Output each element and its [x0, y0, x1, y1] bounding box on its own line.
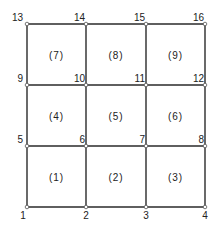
element-label: (4): [49, 111, 64, 122]
node-label: 7: [139, 134, 145, 145]
element-label: (7): [49, 50, 64, 61]
mesh-node: [25, 205, 29, 209]
node-label: 13: [12, 12, 24, 23]
element-label: (8): [108, 50, 123, 61]
mesh-node: [203, 205, 207, 209]
node-label: 2: [83, 210, 89, 221]
node-label: 9: [17, 73, 23, 84]
mesh-node: [25, 22, 29, 26]
node-label: 10: [74, 73, 86, 84]
node-label: 12: [193, 73, 205, 84]
node-label: 3: [143, 210, 149, 221]
node-label: 6: [79, 134, 85, 145]
node-label: 11: [135, 73, 146, 84]
element-label: (5): [108, 111, 123, 122]
node-label: 4: [202, 210, 208, 221]
element-label: (2): [108, 172, 123, 183]
mesh-node: [25, 144, 29, 148]
element-label: (9): [168, 50, 183, 61]
node-label: 16: [193, 12, 205, 23]
node-label: 15: [134, 12, 146, 23]
finite-element-mesh: (1)(2)(3)(4)(5)(6)(7)(8)(9) 123456789101…: [0, 0, 216, 232]
node-label: 14: [74, 12, 86, 23]
node-label: 5: [17, 134, 23, 145]
mesh-node: [25, 83, 29, 87]
element-label: (6): [168, 111, 183, 122]
mesh-node: [144, 205, 148, 209]
mesh-node: [84, 205, 88, 209]
element-label: (1): [49, 172, 64, 183]
element-labels: (1)(2)(3)(4)(5)(6)(7)(8)(9): [49, 50, 183, 183]
node-label: 8: [198, 134, 204, 145]
node-label: 1: [20, 210, 26, 221]
element-label: (3): [168, 172, 183, 183]
